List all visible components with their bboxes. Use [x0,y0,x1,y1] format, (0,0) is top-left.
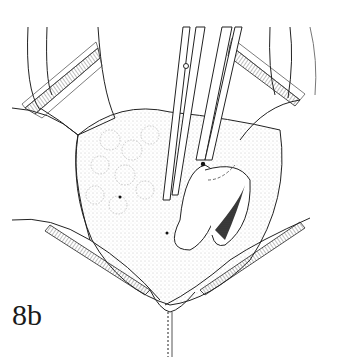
tissue-field [76,109,282,305]
surgical-illustration: 8b [0,0,339,357]
figure-label: 8b [12,300,42,330]
left-upper-wound-edge [22,42,102,118]
line-drawing [0,0,339,357]
